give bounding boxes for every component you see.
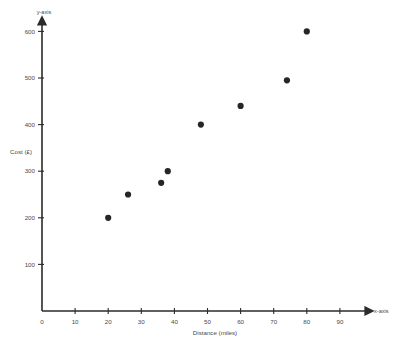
data-point (158, 180, 164, 186)
y-axis-name-label: y-axis (37, 9, 52, 15)
y-tick-label: 600 (25, 28, 36, 35)
x-tick-label: 20 (105, 318, 112, 325)
data-point (284, 77, 290, 83)
data-point (165, 168, 171, 174)
y-tick-label: 100 (25, 261, 36, 268)
x-tick-label: 40 (171, 318, 178, 325)
data-point (105, 215, 111, 221)
x-tick-label: 10 (72, 318, 79, 325)
data-point (198, 122, 204, 128)
x-axis-name-label: x-axis (374, 308, 389, 314)
x-tick-label: 50 (204, 318, 211, 325)
x-tick-label: 90 (336, 318, 343, 325)
y-tick-label: 500 (25, 74, 36, 81)
x-tick-label: 0 (40, 318, 44, 325)
scatter-chart: 1002003004005006000102030405060708090y-a… (0, 0, 408, 339)
data-point (238, 103, 244, 109)
x-axis-title: Distance (miles) (193, 329, 237, 336)
y-tick-label: 400 (25, 121, 36, 128)
data-point (125, 191, 131, 197)
x-tick-label: 60 (237, 318, 244, 325)
x-tick-label: 70 (270, 318, 277, 325)
data-point (304, 28, 310, 34)
y-axis-title: Cost (£) (10, 148, 32, 155)
y-tick-label: 300 (25, 167, 36, 174)
chart-canvas: 1002003004005006000102030405060708090y-a… (0, 0, 408, 339)
x-tick-label: 30 (138, 318, 145, 325)
y-tick-label: 200 (25, 214, 36, 221)
x-tick-label: 80 (303, 318, 310, 325)
